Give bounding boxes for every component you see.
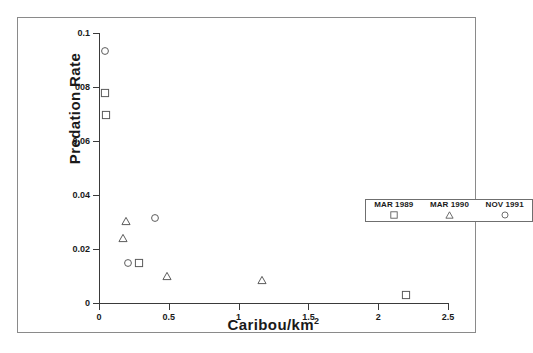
legend-marker-circle-icon [501, 211, 509, 219]
y-axis-title: Predation Rate [66, 19, 83, 199]
data-point-triangle [121, 216, 131, 225]
data-point-triangle [162, 272, 172, 281]
y-tick-mark [93, 87, 99, 88]
legend-entry[interactable]: MAR 1989 [374, 201, 413, 219]
legend-label: MAR 1990 [430, 201, 469, 209]
y-tick-mark [93, 33, 99, 34]
data-point-circle [100, 47, 109, 56]
y-tick-mark [93, 195, 99, 196]
data-point-triangle [257, 276, 267, 285]
x-tick-mark [99, 304, 100, 310]
plot-area: 00.020.040.060080.1 00.511.522.5 MAR 198… [99, 33, 448, 303]
x-axis-line [99, 303, 449, 304]
legend-label: MAR 1989 [374, 201, 413, 209]
legend-marker-square-icon [390, 211, 398, 219]
data-point-square [135, 258, 144, 267]
data-point-triangle [118, 234, 128, 243]
y-tick-label: 0 [85, 298, 90, 308]
data-point-square [100, 88, 109, 97]
legend-marker-triangle-icon [445, 211, 454, 219]
x-tick-mark [239, 304, 240, 310]
x-axis-title-text: Caribou/km [228, 316, 315, 333]
data-point-circle [124, 258, 133, 267]
x-axis-title-exponent: 2 [314, 316, 319, 326]
data-point-square [402, 290, 411, 299]
y-tick-mark [93, 249, 99, 250]
x-tick-mark [169, 304, 170, 310]
legend-entry[interactable]: MAR 1990 [430, 201, 469, 219]
y-axis-line [99, 33, 100, 304]
data-point-circle [150, 213, 159, 222]
data-point-square [101, 111, 110, 120]
y-tick-mark [93, 141, 99, 142]
x-tick-mark [448, 304, 449, 310]
x-axis-title: Caribou/km2 [99, 316, 448, 333]
x-tick-mark [378, 304, 379, 310]
legend-box[interactable]: MAR 1989MAR 1990NOV 1991 [365, 199, 533, 222]
y-tick-label: 0.02 [72, 244, 90, 254]
legend-entry[interactable]: NOV 1991 [486, 201, 524, 219]
x-tick-mark [308, 304, 309, 310]
legend-label: NOV 1991 [486, 201, 524, 209]
